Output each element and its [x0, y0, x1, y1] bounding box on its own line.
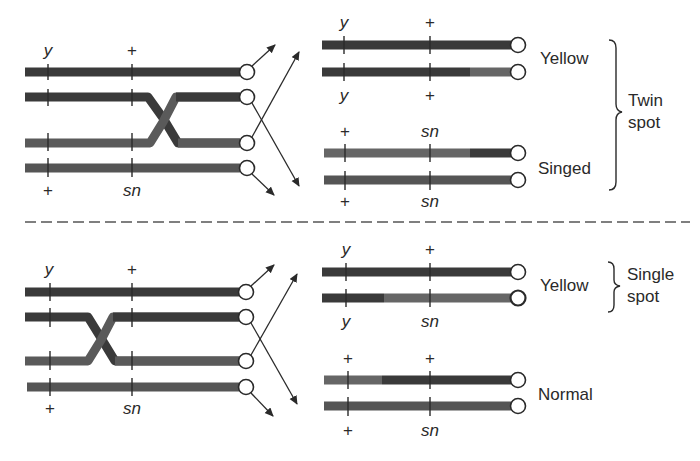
locus-ticks [50, 283, 132, 396]
locus-label: y [339, 86, 350, 105]
arrow-icon [252, 103, 299, 186]
centromere-icon [511, 291, 526, 306]
locus-label: y [341, 240, 352, 259]
centromere-icon [239, 354, 254, 369]
arrow-icon [251, 274, 297, 355]
bottom-right-daughter-yellow: y + y sn Yellow [322, 240, 589, 331]
centromere-icon [511, 399, 526, 414]
arrow-icon [252, 45, 275, 66]
centromere-icon [511, 146, 526, 161]
brace-icon [608, 262, 620, 312]
centromere-icon [239, 310, 254, 325]
locus-label: y [341, 312, 352, 331]
top-panel: y + + sn y + y + Yellow [25, 13, 663, 211]
bracket-label: spot [627, 287, 659, 306]
locus-label: + [43, 181, 53, 200]
locus-label: + [425, 13, 435, 32]
centromere-icon [240, 136, 255, 151]
locus-label: y [43, 41, 54, 60]
arrow-icon [252, 52, 299, 137]
centromere-icon [511, 173, 526, 188]
centromere-icon [511, 373, 526, 388]
arrow-icon [252, 174, 274, 195]
bracket-label: spot [628, 113, 660, 132]
locus-label: + [340, 122, 350, 141]
bracket-label: Twin [628, 91, 663, 110]
locus-ticks [48, 64, 132, 177]
bottom-left-chromatids: y + + sn [25, 260, 254, 418]
locus-label: y [339, 13, 350, 32]
phenotype-label: Yellow [540, 49, 589, 68]
locus-label: sn [421, 122, 439, 141]
locus-label: + [425, 349, 435, 368]
centromere-icon [240, 161, 255, 176]
mitotic-recombination-diagram: y + + sn y + y + Yellow [0, 0, 700, 461]
centromere-icon [511, 65, 526, 80]
top-right-daughter-singed: + sn + sn Singed [324, 122, 591, 211]
locus-label: + [340, 192, 350, 211]
centromere-icon [240, 90, 255, 105]
locus-label: sn [421, 192, 439, 211]
arrow-icon [251, 393, 273, 416]
locus-label: sn [421, 421, 439, 440]
centromere-icon [240, 65, 255, 80]
centromere-icon [511, 38, 526, 53]
top-right-daughter-yellow: y + y + Yellow [322, 13, 589, 105]
brace-icon [609, 40, 622, 190]
locus-label: sn [123, 399, 141, 418]
locus-label: + [127, 41, 137, 60]
locus-label: y [44, 260, 55, 279]
bottom-right-daughter-normal: + + + sn Normal [324, 349, 593, 440]
locus-label: + [425, 240, 435, 259]
phenotype-label: Yellow [540, 276, 589, 295]
arrow-icon [251, 323, 297, 404]
top-left-chromatids: y + + sn [25, 41, 255, 200]
centromere-icon [239, 380, 254, 395]
phenotype-label: Normal [538, 385, 593, 404]
bottom-panel: y + + sn y + y sn Yellow [25, 240, 674, 440]
locus-label: + [343, 421, 353, 440]
locus-label: sn [123, 181, 141, 200]
segregation-arrows [252, 45, 299, 195]
locus-label: sn [421, 312, 439, 331]
segregation-arrows [251, 265, 297, 416]
locus-label: + [343, 349, 353, 368]
phenotype-label: Singed [538, 159, 591, 178]
locus-label: + [45, 399, 55, 418]
locus-label: + [127, 260, 137, 279]
bracket-label: Single [627, 265, 674, 284]
centromere-icon [239, 285, 254, 300]
locus-label: + [425, 86, 435, 105]
arrow-icon [251, 265, 274, 286]
centromere-icon [511, 265, 526, 280]
